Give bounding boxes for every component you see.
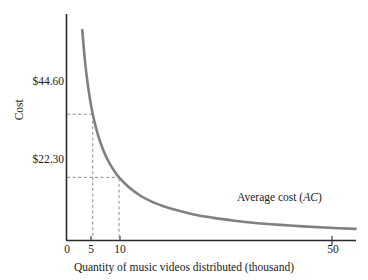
curve-label-text: Average cost ( bbox=[237, 191, 303, 203]
y-tick-label-44-60: $44.60 bbox=[8, 76, 64, 88]
y-axis-title: Cost bbox=[14, 88, 26, 132]
y-tick-label-22-30: $22.30 bbox=[8, 154, 64, 166]
x-tick-label-10: 10 bbox=[108, 244, 132, 256]
average-cost-chart: $44.60 $22.30 Cost 0 5 10 50 Quantity of… bbox=[0, 0, 368, 280]
x-axis-title: Quantity of music videos distributed (th… bbox=[0, 262, 368, 274]
x-tick-label-0: 0 bbox=[57, 244, 77, 256]
x-tick-label-50: 50 bbox=[321, 244, 345, 256]
chart-plot-area bbox=[0, 0, 368, 280]
curve-label-close: ) bbox=[318, 191, 322, 203]
curve-label-symbol: AC bbox=[303, 191, 318, 203]
curve-series-label: Average cost (AC) bbox=[237, 192, 322, 204]
x-tick-label-5: 5 bbox=[81, 244, 101, 256]
